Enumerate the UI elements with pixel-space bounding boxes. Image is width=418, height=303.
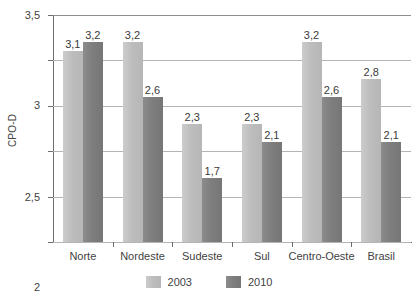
gridline [53,60,411,61]
x-axis-separator [232,242,233,247]
y-axis-tick-label: 2,5 [25,191,40,203]
x-axis-label-centro-oeste: Centro-Oeste [288,250,354,262]
legend-item-2010[interactable]: 2010 [226,276,272,288]
bar-value-label: 2,6 [145,84,160,96]
bar-nordeste-2010: 2,6 [143,97,163,242]
legend-swatch-2010-icon [226,276,241,288]
bar-brasil-2010: 2,1 [381,142,401,242]
x-axis-separator [172,242,173,247]
bar-value-label: 2,1 [264,129,279,141]
bar-value-label: 3,2 [85,29,100,41]
x-axis-label-sul: Sul [254,250,270,262]
bar-sul-2010: 2,1 [262,142,282,242]
bar-sudeste-2010: 1,7 [202,178,222,242]
y-axis-tick: 3,5 [48,15,53,16]
y-axis-tick: 2 [48,151,53,152]
bar-value-label: 2,6 [324,84,339,96]
y-axis-tick-label: 3,5 [25,9,40,21]
x-axis-label-sudeste: Sudeste [182,250,222,262]
bar-value-label: 3,1 [65,38,80,50]
legend-item-2003[interactable]: 2003 [146,276,192,288]
bar-centro-oeste-2003: 3,2 [302,42,322,242]
legend-label-2010: 2010 [248,276,272,288]
x-axis-separator [113,242,114,247]
y-axis-tick: 1 [48,242,53,243]
gridline [53,197,411,198]
x-axis-label-brasil: Brasil [367,250,395,262]
plot-area: 11,522,533,5 3,13,23,22,62,31,72,32,13,2… [53,15,411,242]
bar-norte-2003: 3,1 [63,51,83,242]
y-axis-tick: 3 [48,60,53,61]
y-axis-title: CPO-D [2,95,24,165]
y-axis-line [53,15,54,243]
x-axis-separator [351,242,352,247]
bar-centro-oeste-2010: 2,6 [322,97,342,242]
bar-value-label: 2,3 [244,111,259,123]
x-axis-label-nordeste: Nordeste [120,250,165,262]
bar-value-label: 3,2 [125,29,140,41]
bar-value-label: 2,3 [185,111,200,123]
gridline [53,151,411,152]
legend-label-2003: 2003 [168,276,192,288]
y-axis-tick: 1,5 [48,197,53,198]
bar-value-label: 2,1 [384,129,399,141]
chart-legend: 2003 2010 [0,276,418,288]
bar-nordeste-2003: 3,2 [123,42,143,242]
bar-chart: CPO-D 11,522,533,5 3,13,23,22,62,31,72,3… [0,0,418,303]
gridline [53,106,411,107]
gridline [53,15,411,16]
bar-sudeste-2003: 2,3 [182,124,202,242]
legend-swatch-2003-icon [146,276,161,288]
y-axis-tick: 2,5 [48,106,53,107]
bar-brasil-2003: 2,8 [361,79,381,242]
y-axis-tick-label: 3 [34,99,40,111]
bar-sul-2003: 2,3 [242,124,262,242]
y-axis-title-label: CPO-D [8,113,19,146]
bar-value-label: 3,2 [304,29,319,41]
bar-value-label: 1,7 [205,165,220,177]
bar-norte-2010: 3,2 [83,42,103,242]
x-axis-separator [292,242,293,247]
x-axis-label-norte: Norte [69,250,96,262]
bar-value-label: 2,8 [364,66,379,78]
